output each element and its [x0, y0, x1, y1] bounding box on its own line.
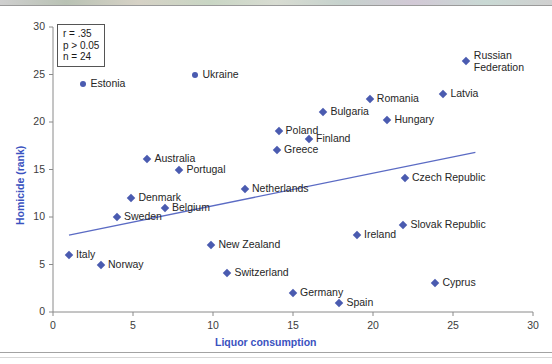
data-point-label: Ukraine: [202, 69, 238, 81]
x-tick-label: 10: [201, 319, 225, 331]
x-axis-title: Liquor consumption: [215, 336, 317, 348]
stat-r: r = .35: [63, 28, 99, 40]
data-point-label: Romania: [377, 93, 419, 105]
data-point-label: Estonia: [90, 78, 125, 90]
data-point-label: Netherlands: [252, 183, 309, 195]
y-tick-label: 10: [21, 210, 45, 222]
x-tick-label: 15: [281, 319, 305, 331]
y-tick-label: 15: [21, 163, 45, 175]
figure-container: Homicide (rank) Liquor consumption r = .…: [0, 0, 552, 364]
y-tick-label: 5: [21, 258, 45, 270]
data-point-label: Czech Republic: [412, 172, 486, 184]
data-point-label: Ireland: [364, 229, 396, 241]
data-point-label: New Zealand: [218, 239, 280, 251]
bottom-divider-rule: [0, 352, 552, 353]
data-point-label: Slovak Republic: [410, 219, 485, 231]
statistics-annotation-box: r = .35 p > 0.05 n = 24: [57, 24, 105, 67]
data-point-label: Spain: [346, 297, 373, 309]
x-tick-label: 20: [361, 319, 385, 331]
data-point-label: Portugal: [186, 164, 225, 176]
data-point-label: Sweden: [124, 211, 162, 223]
data-point-label: Bulgaria: [330, 106, 369, 118]
data-point-label: Poland: [286, 125, 319, 137]
data-point-label: Norway: [108, 259, 144, 271]
data-point-label: Belgium: [172, 202, 210, 214]
scatter-plot: Homicide (rank) Liquor consumption r = .…: [0, 0, 552, 364]
data-point-label: Greece: [284, 144, 318, 156]
x-tick-label: 30: [521, 319, 545, 331]
bottom-divider-rule-secondary: [0, 357, 552, 358]
stat-p: p > 0.05: [63, 40, 99, 52]
data-point-label: Cyprus: [442, 277, 475, 289]
x-tick-label: 5: [121, 319, 145, 331]
stat-n: n = 24: [63, 51, 99, 63]
y-tick-label: 0: [21, 305, 45, 317]
y-tick-label: 30: [21, 20, 45, 32]
data-point-label: Finland: [316, 133, 350, 145]
data-point-label: Latvia: [450, 88, 478, 100]
y-tick-label: 20: [21, 115, 45, 127]
x-tick-label: 0: [41, 319, 65, 331]
data-point-label: Switzerland: [234, 267, 288, 279]
data-point-label: Italy: [76, 249, 95, 261]
data-point-label: RussianFederation: [474, 50, 524, 73]
data-point-marker: [192, 72, 198, 78]
x-tick-label: 25: [441, 319, 465, 331]
y-tick-label: 25: [21, 68, 45, 80]
data-point-label: Germany: [300, 287, 343, 299]
data-point-label: Hungary: [394, 114, 434, 126]
